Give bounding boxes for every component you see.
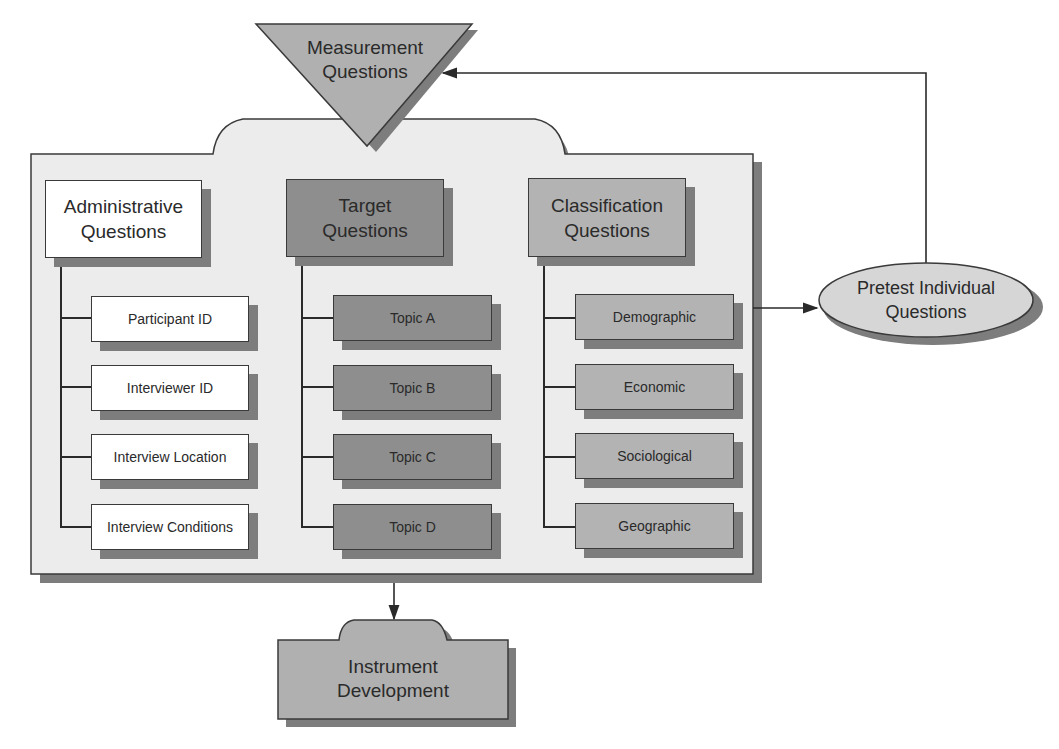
instrument-development-label: Instrument Development (303, 655, 483, 703)
administrative-questions-header: AdministrativeQuestions (45, 180, 202, 258)
participant-id-item: Participant ID (91, 296, 249, 342)
measurement-questions-label: Measurement Questions (290, 36, 440, 84)
topic-d-item: Topic D (333, 504, 492, 550)
topic-c-item: Topic C (333, 434, 492, 480)
geographic-item: Geographic (575, 503, 734, 549)
target-questions-header: TargetQuestions (286, 179, 444, 257)
demographic-item: Demographic (575, 294, 734, 340)
interview-location-item: Interview Location (91, 434, 249, 480)
economic-item: Economic (575, 364, 734, 410)
interviewer-id-item: Interviewer ID (91, 365, 249, 411)
pretest-individual-questions-label: Pretest Individual Questions (826, 276, 1026, 324)
topic-a-item: Topic A (333, 295, 492, 341)
topic-b-item: Topic B (333, 365, 492, 411)
interview-conditions-item: Interview Conditions (91, 504, 249, 550)
classification-questions-header: ClassificationQuestions (528, 178, 686, 257)
sociological-item: Sociological (575, 433, 734, 479)
